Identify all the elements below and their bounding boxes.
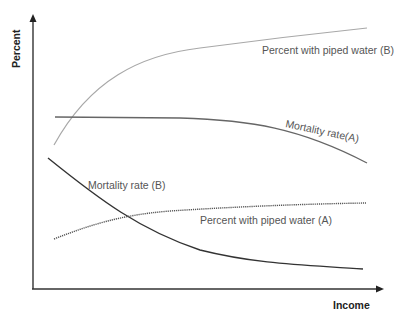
label-piped-water-a: Percent with piped water (A) <box>200 214 332 226</box>
x-axis-label: Income <box>333 299 370 311</box>
x-axis-arrow-icon <box>376 286 384 293</box>
y-axis-label: Percent <box>10 29 22 68</box>
label-piped-water-b: Percent with piped water (B) <box>262 44 394 56</box>
chart: Percent Income Percent with piped water … <box>0 0 405 323</box>
label-mortality-rate-a: Mortality rate(A) <box>285 117 361 144</box>
label-mortality-rate-b: Mortality rate (B) <box>88 179 166 191</box>
y-axis-arrow-icon <box>30 14 37 22</box>
